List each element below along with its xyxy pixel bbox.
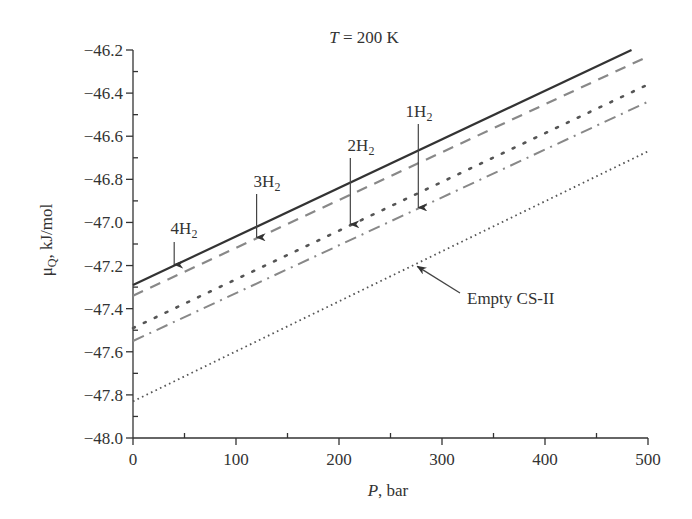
x-tick-label: 500 xyxy=(635,450,661,469)
x-tick-label: 300 xyxy=(429,450,455,469)
y-tick-label: −46.2 xyxy=(84,41,123,60)
annotation-3h2: 3H2 xyxy=(254,172,281,237)
series-4h2 xyxy=(133,50,632,285)
y-axis-label: μQ, kJ/mol xyxy=(37,203,59,276)
annotation-2h2: 2H2 xyxy=(348,136,375,224)
y-tick-label: −47.0 xyxy=(84,213,123,232)
y-tick-label: −46.6 xyxy=(84,127,123,146)
annotation-empty-cs-ii: Empty CS-II xyxy=(417,266,554,308)
axes xyxy=(126,50,648,445)
series-empty-cs-ii xyxy=(133,151,648,401)
x-tick-label: 100 xyxy=(223,450,249,469)
x-tick-label: 400 xyxy=(532,450,558,469)
annotation-label: 1H2 xyxy=(406,102,433,124)
annotation-arrow xyxy=(417,266,460,293)
y-tick-label: −46.4 xyxy=(84,84,124,103)
x-axis-label: P, bar xyxy=(367,481,409,500)
annotation-label: 3H2 xyxy=(254,172,281,194)
series-2h2 xyxy=(133,84,648,328)
x-tick-label: 0 xyxy=(129,450,138,469)
chart: T = 200 K μQ, kJ/mol P, bar −46.2−46.4−4… xyxy=(0,0,692,519)
series-3h2 xyxy=(133,56,648,295)
y-tick-label: −47.4 xyxy=(84,300,124,319)
y-tick-label: −47.2 xyxy=(84,257,123,276)
annotations: 4H23H22H21H2Empty CS-II xyxy=(171,102,555,308)
y-tick-label: −47.6 xyxy=(84,343,123,362)
x-tick-label: 200 xyxy=(326,450,352,469)
y-tick-label: −46.8 xyxy=(84,170,123,189)
y-tick-label: −48.0 xyxy=(84,429,123,448)
annotation-label: Empty CS-II xyxy=(467,289,555,308)
annotation-label: 2H2 xyxy=(348,136,375,158)
chart-title: T = 200 K xyxy=(329,28,399,47)
x-tick-labels: 0100200300400500 xyxy=(129,450,661,469)
annotation-label: 4H2 xyxy=(171,219,198,241)
y-tick-label: −47.8 xyxy=(84,386,123,405)
data-series xyxy=(133,50,648,401)
series-1h2 xyxy=(133,102,648,341)
y-tick-labels: −46.2−46.4−46.6−46.8−47.0−47.2−47.4−47.6… xyxy=(84,41,124,448)
